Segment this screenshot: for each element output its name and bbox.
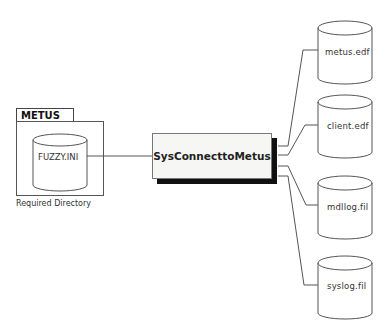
connector-client-edf [278,125,318,155]
sysconnecttometus-process: SysConnecttoMetus [152,133,272,179]
output-label-client-edf: client.edf [327,121,369,131]
metus-directory-title: METUS [16,108,74,121]
output-label-mdllog-fil: mdllog.fil [327,202,368,212]
required-directory-caption: Required Directory [16,199,91,208]
connector-mdllog-fil [278,166,318,205]
output-label-metus-edf: metus.edf [325,47,370,57]
connector-metus-edf [278,50,318,146]
connector-syslog-fil [278,176,318,285]
process-label: SysConnecttoMetus [153,150,270,162]
fuzzy-ini-label: FUZZY.INI [38,152,78,162]
output-label-syslog-fil: syslog.fil [327,281,366,291]
